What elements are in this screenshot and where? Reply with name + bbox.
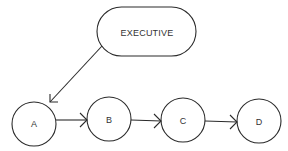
node-b-label: B [106, 115, 112, 125]
edge-a-to-b [56, 113, 87, 127]
node-a-label: A [31, 119, 37, 129]
flow-diagram: EXECUTIVE A B C D [0, 0, 288, 151]
edge-line [205, 121, 237, 122]
node-b: B [87, 97, 131, 141]
node-c-label: C [180, 116, 187, 126]
executive-node: EXECUTIVE [97, 7, 196, 56]
node-d-label: D [256, 117, 263, 127]
node-c: C [161, 98, 205, 142]
edge-line [131, 120, 161, 121]
node-d: D [237, 99, 281, 143]
edge-executive-to-a [50, 46, 102, 102]
node-a: A [12, 102, 56, 146]
edge-b-to-c [131, 114, 161, 128]
executive-label: EXECUTIVE [121, 28, 174, 38]
edge-line [50, 46, 102, 102]
edge-c-to-d [205, 115, 237, 129]
